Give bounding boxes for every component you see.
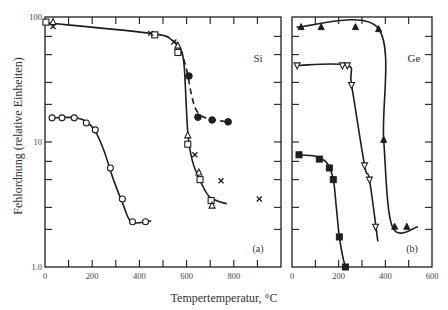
data-point xyxy=(404,223,410,229)
panel-ge: 0200400600Ge(b) xyxy=(290,17,439,281)
data-point xyxy=(175,49,181,55)
x-tick-label: 800 xyxy=(227,271,240,281)
panel-title: Si xyxy=(253,52,262,64)
x-tick-label: 0 xyxy=(290,271,294,281)
plot-frame xyxy=(45,17,281,267)
data-point xyxy=(49,115,55,121)
x-tick-label: 600 xyxy=(426,271,439,281)
data-point xyxy=(92,127,98,133)
data-point xyxy=(197,177,203,183)
data-point xyxy=(373,224,379,230)
data-point xyxy=(119,196,125,202)
curve xyxy=(297,20,418,233)
x-tick-label: 200 xyxy=(86,271,99,281)
data-point xyxy=(318,24,324,30)
data-point xyxy=(349,82,355,88)
data-point xyxy=(209,117,216,124)
panel-tag: (a) xyxy=(252,243,263,255)
data-point xyxy=(107,165,113,171)
data-point xyxy=(352,24,358,30)
curve xyxy=(297,155,346,267)
y-tick-label: 10 xyxy=(34,137,43,147)
data-point xyxy=(59,115,65,121)
data-point xyxy=(342,264,348,270)
data-point xyxy=(381,136,387,142)
data-point xyxy=(83,120,89,126)
data-point xyxy=(186,73,193,80)
data-point xyxy=(366,177,372,183)
data-point xyxy=(344,63,350,69)
data-point xyxy=(192,152,197,157)
data-point xyxy=(196,169,202,175)
data-point xyxy=(225,119,232,126)
data-point xyxy=(294,63,300,69)
data-point xyxy=(195,114,202,121)
data-point xyxy=(336,234,342,240)
x-axis-label: Tempertemperatur, °C xyxy=(0,291,448,306)
curve xyxy=(52,117,151,223)
data-point xyxy=(296,152,302,158)
panel-si: 02004006008001.010100Si(a) xyxy=(29,12,281,281)
x-tick-label: 600 xyxy=(180,271,193,281)
panel-title: Ge xyxy=(408,52,421,64)
chart-canvas: 02004006008001.010100Si(a)0200400600Ge(b… xyxy=(0,0,448,310)
x-tick-label: 400 xyxy=(379,271,392,281)
y-tick-label: 1.0 xyxy=(31,262,42,272)
data-point xyxy=(143,219,149,225)
data-point xyxy=(330,177,336,183)
data-point xyxy=(208,198,214,204)
data-point xyxy=(316,156,322,162)
data-point xyxy=(130,219,136,225)
data-point xyxy=(362,163,368,169)
data-point xyxy=(185,132,191,138)
data-point xyxy=(43,19,49,25)
x-tick-label: 0 xyxy=(43,271,47,281)
y-axis-label: Fehlordnung (relative Einheiten) xyxy=(11,41,27,231)
x-tick-label: 200 xyxy=(332,271,345,281)
curve xyxy=(181,49,229,121)
data-point xyxy=(326,165,332,171)
x-tick-label: 400 xyxy=(133,271,146,281)
y-tick-label: 100 xyxy=(29,12,42,22)
data-point xyxy=(257,196,262,201)
data-point xyxy=(219,178,224,183)
data-point xyxy=(185,141,191,147)
data-point xyxy=(71,115,77,121)
panel-tag: (b) xyxy=(406,243,418,255)
